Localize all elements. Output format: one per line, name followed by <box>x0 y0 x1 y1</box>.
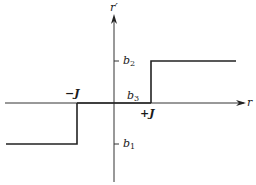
b3-subscript: 3 <box>134 94 139 103</box>
neg-threshold-label: −J <box>65 88 79 99</box>
b1-base: b <box>123 137 130 150</box>
b2-subscript: 2 <box>130 59 135 68</box>
b1-subscript: 1 <box>130 142 135 151</box>
step-function-diagram: r′ r −J +J b2 b3 b1 <box>0 0 256 185</box>
b2-base: b <box>123 54 130 67</box>
segment-b1 <box>6 103 77 144</box>
b1-label: b1 <box>123 138 135 151</box>
pos-threshold-label: +J <box>140 108 154 119</box>
b3-base: b <box>127 89 134 102</box>
b3-label: b3 <box>127 90 139 103</box>
y-axis-label: r′ <box>110 2 118 13</box>
b2-label: b2 <box>123 55 135 68</box>
segment-b2 <box>151 61 236 103</box>
x-axis-label: r <box>247 97 252 108</box>
